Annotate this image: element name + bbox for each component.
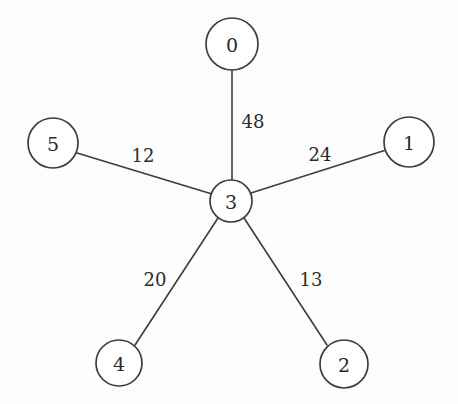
node-1-label: 1 [403, 132, 415, 154]
node-3-label: 3 [225, 191, 237, 213]
node-2[interactable]: 2 [320, 340, 368, 388]
edge-label-3-2: 13 [300, 269, 323, 290]
node-1[interactable]: 1 [384, 117, 434, 167]
edge-label-5-3: 12 [132, 145, 155, 166]
node-2-label: 2 [338, 354, 350, 376]
node-4-label: 4 [113, 353, 125, 375]
edge-label-0-3: 48 [242, 111, 265, 132]
graph-figure: 48 12 24 20 13 0 1 2 3 [0, 0, 458, 404]
node-5-label: 5 [47, 133, 59, 155]
node-0-label: 0 [226, 34, 238, 56]
node-4[interactable]: 4 [96, 340, 142, 386]
edge-label-3-4: 20 [144, 269, 167, 290]
node-5[interactable]: 5 [28, 118, 78, 168]
nodes-group: 0 1 2 3 4 5 [28, 18, 434, 388]
node-0[interactable]: 0 [206, 18, 258, 70]
node-3[interactable]: 3 [210, 180, 252, 222]
graph-canvas: 48 12 24 20 13 0 1 2 3 [0, 0, 458, 404]
edge-label-3-1: 24 [309, 144, 332, 165]
